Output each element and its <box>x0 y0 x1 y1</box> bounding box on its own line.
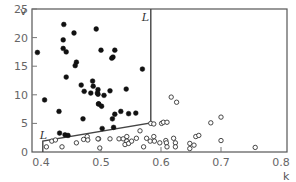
open-point <box>209 121 213 125</box>
filled-point <box>124 87 129 92</box>
x-axis-label: k <box>283 170 290 182</box>
region-label-L: L <box>39 129 47 142</box>
filled-point <box>72 31 77 36</box>
filled-point <box>108 88 113 93</box>
open-point <box>188 146 192 150</box>
filled-point <box>61 22 66 27</box>
x-tick-label: 0.7 <box>212 156 230 169</box>
filled-point <box>94 27 99 32</box>
y-tick-label: 0 <box>21 146 28 159</box>
open-point <box>197 133 201 137</box>
filled-point <box>88 91 93 96</box>
filled-point <box>96 92 101 97</box>
scatter-chart: 0510152025 0.40.50.60.70.8 v k LL <box>0 0 296 182</box>
filled-point <box>66 133 71 138</box>
x-tick-label: 0.4 <box>32 156 50 169</box>
region-label-L: L <box>141 11 149 24</box>
y-tick-label: 20 <box>14 32 28 45</box>
open-point <box>53 138 57 142</box>
open-point <box>165 120 169 124</box>
filled-point <box>140 67 145 72</box>
open-point <box>148 139 152 143</box>
y-axis-label: v <box>20 5 27 18</box>
filled-point <box>112 48 117 53</box>
open-point <box>117 137 121 141</box>
filled-point <box>82 89 87 94</box>
filled-point <box>61 37 66 42</box>
filled-point <box>42 98 47 103</box>
open-point <box>125 134 129 138</box>
filled-point <box>133 111 138 116</box>
filled-point <box>81 116 86 121</box>
filled-point <box>90 79 95 84</box>
y-axis: 0510152025 <box>14 3 37 159</box>
filled-point <box>64 50 69 55</box>
open-point <box>165 145 169 149</box>
filled-point <box>57 131 62 136</box>
open-point <box>98 146 102 150</box>
open-point <box>60 145 64 149</box>
open-point <box>152 134 156 138</box>
open-point <box>152 122 156 126</box>
filled-point <box>79 83 84 88</box>
open-point <box>138 129 142 133</box>
open-point <box>173 145 177 149</box>
y-tick-label: 5 <box>21 117 28 130</box>
open-point <box>74 141 78 145</box>
x-tick-label: 0.5 <box>92 156 110 169</box>
open-point <box>188 141 192 145</box>
y-tick-label: 10 <box>14 89 28 102</box>
x-axis: 0.40.50.60.70.8 <box>32 147 290 169</box>
open-point <box>253 145 257 149</box>
open-point <box>192 143 196 147</box>
open-point <box>86 138 90 142</box>
filled-point <box>35 50 40 55</box>
open-point <box>174 100 178 104</box>
open-point <box>169 95 173 99</box>
open-point <box>219 115 223 119</box>
filled-point <box>126 111 131 116</box>
filled-point <box>110 116 115 121</box>
open-point <box>219 138 223 142</box>
filled-point <box>91 84 96 89</box>
filled-point <box>96 87 101 92</box>
filled-point <box>111 125 116 130</box>
open-point <box>158 141 162 145</box>
open-point <box>152 139 156 143</box>
region-labels: LL <box>39 11 149 142</box>
filled-point <box>99 48 104 53</box>
filled-point <box>73 63 78 68</box>
filled-point <box>100 126 105 131</box>
y-tick-label: 15 <box>14 60 28 73</box>
open-point <box>108 137 112 141</box>
filled-point <box>109 56 114 61</box>
plot-frame <box>32 9 287 152</box>
open-point <box>44 145 48 149</box>
open-point <box>129 139 133 143</box>
x-tick-label: 0.6 <box>152 156 170 169</box>
open-point <box>171 136 175 140</box>
filled-point <box>102 93 107 98</box>
filled-points-series <box>35 22 145 138</box>
filled-point <box>57 109 62 114</box>
filled-point <box>112 112 117 117</box>
open-point <box>134 136 138 140</box>
filled-point <box>99 104 104 109</box>
filled-point <box>118 109 123 114</box>
open-point <box>141 145 145 149</box>
x-tick-label: 0.8 <box>272 156 290 169</box>
open-point <box>96 137 100 141</box>
filled-point <box>64 75 69 80</box>
